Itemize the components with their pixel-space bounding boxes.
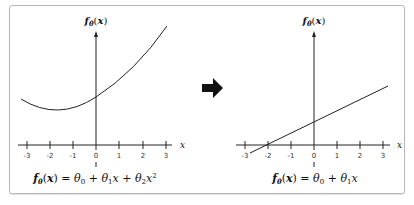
right-formula: fθ(x) = θ0 + θ1x xyxy=(271,172,358,186)
svg-text:2: 2 xyxy=(141,152,145,160)
svg-text:-2: -2 xyxy=(47,152,54,160)
left-formula: fθ(x) = θ0 + θ1x + θ2x2 xyxy=(32,172,156,186)
left-x-axis-label: x xyxy=(180,140,185,150)
right-plot: fθ(x) x -3 -2 -1 0 1 2 3 fθ(x) = θ0 + θ1… xyxy=(236,15,402,186)
svg-text:2: 2 xyxy=(358,152,362,160)
transition-arrow-icon xyxy=(202,78,223,98)
svg-text:1: 1 xyxy=(117,152,121,160)
left-y-axis-arrowhead-icon xyxy=(94,31,98,37)
svg-text:-3: -3 xyxy=(24,152,31,160)
right-linear-line xyxy=(250,86,388,153)
left-plot: fθ(x) x -3 -2 -1 0 1 2 3 fθ(x) = θ0 + θ1… xyxy=(18,15,185,186)
right-y-axis-arrowhead-icon xyxy=(312,31,316,37)
svg-text:-1: -1 xyxy=(288,152,295,160)
svg-text:-2: -2 xyxy=(265,152,272,160)
right-y-axis-label: fθ(x) xyxy=(302,15,326,28)
svg-text:-3: -3 xyxy=(242,152,249,160)
svg-text:3: 3 xyxy=(164,152,168,160)
left-y-axis-label: fθ(x) xyxy=(84,15,108,28)
svg-text:-1: -1 xyxy=(70,152,77,160)
right-tick-labels: -3 -2 -1 0 1 2 3 xyxy=(242,152,386,160)
svg-text:0: 0 xyxy=(312,152,316,160)
svg-text:3: 3 xyxy=(381,152,385,160)
svg-text:0: 0 xyxy=(94,152,98,160)
left-tick-labels: -3 -2 -1 0 1 2 3 xyxy=(24,152,169,160)
left-quadratic-curve xyxy=(21,26,167,110)
right-x-axis-label: x xyxy=(397,140,402,150)
svg-text:1: 1 xyxy=(335,152,339,160)
